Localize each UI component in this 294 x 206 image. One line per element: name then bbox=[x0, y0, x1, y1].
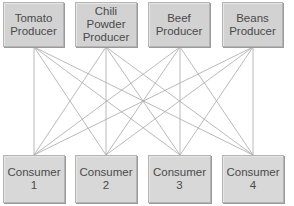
producer-chili-powder: Chili Powder Producer bbox=[75, 2, 137, 47]
producer-beef: Beef Producer bbox=[148, 2, 210, 47]
consumer-1: Consumer 1 bbox=[3, 155, 65, 203]
producer-tomato: Tomato Producer bbox=[3, 2, 64, 47]
consumer-3: Consumer 3 bbox=[148, 155, 211, 203]
consumer-2: Consumer 2 bbox=[75, 155, 137, 203]
producer-beans: Beans Producer bbox=[222, 2, 283, 47]
consumer-4: Consumer 4 bbox=[222, 155, 284, 203]
